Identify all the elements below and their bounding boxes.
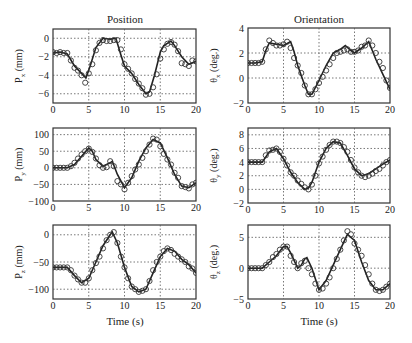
x-tick-label: 0 — [246, 104, 251, 115]
x-tick-label: 15 — [350, 104, 360, 115]
x-tick-label: 5 — [86, 104, 91, 115]
x-tick-label: 20 — [385, 300, 395, 311]
y-tick-label: 0 — [239, 73, 244, 84]
panel-top-left: 051015200−2−4−6Px (mm) — [13, 29, 201, 115]
x-tick-label: 0 — [51, 104, 56, 115]
x-tick-label: 0 — [51, 202, 56, 213]
y-tick-label: 6 — [239, 143, 244, 154]
y-tick-label: −50 — [33, 179, 49, 190]
x-tick-label: 15 — [155, 202, 165, 213]
y-tick-label: −2 — [38, 51, 49, 62]
x-axis-label-left: Time (s) — [106, 315, 144, 328]
panel-top-right: 05101520420−2θx (deg.) — [208, 23, 395, 116]
x-tick-label: 10 — [314, 204, 324, 215]
y-axis-label: Px (mm) — [13, 49, 27, 83]
x-tick-label: 20 — [385, 104, 395, 115]
y-axis-label: θy (deg.) — [208, 148, 222, 182]
y-tick-label: 50 — [39, 146, 49, 157]
y-tick-label: 8 — [239, 129, 244, 140]
y-tick-label: −50 — [33, 257, 49, 268]
y-axis-label: θx (deg.) — [208, 48, 222, 82]
y-tick-label: −2 — [233, 98, 244, 109]
figure: Position Orientation Time (s) Time (s) 0… — [0, 0, 412, 343]
y-tick-label: −2 — [233, 198, 244, 209]
panel-middle-right: 0510152086420−2θy (deg.) — [208, 128, 395, 215]
x-tick-label: 10 — [120, 300, 130, 311]
x-tick-label: 5 — [281, 104, 286, 115]
y-axis-label: Pz (mm) — [13, 245, 27, 278]
y-tick-label: −5 — [233, 294, 244, 305]
y-axis-label: Py (mm) — [13, 148, 27, 182]
y-tick-label: −100 — [28, 284, 49, 295]
y-tick-label: 0 — [44, 229, 49, 240]
y-axis-label: θz (deg.) — [208, 245, 222, 279]
x-tick-label: 20 — [191, 202, 201, 213]
y-tick-label: −100 — [28, 196, 49, 207]
y-tick-label: 0 — [44, 162, 49, 173]
x-tick-label: 5 — [281, 204, 286, 215]
x-tick-label: 0 — [246, 204, 251, 215]
panel-middle-left: 05101520100500−50−100Py (mm) — [13, 128, 201, 213]
y-tick-label: 2 — [239, 170, 244, 181]
y-tick-label: −4 — [38, 70, 49, 81]
x-tick-label: 5 — [86, 300, 91, 311]
x-tick-label: 5 — [86, 202, 91, 213]
x-tick-label: 15 — [155, 300, 165, 311]
x-tick-label: 15 — [350, 300, 360, 311]
y-tick-label: 0 — [239, 184, 244, 195]
x-axis-label-right: Time (s) — [300, 315, 338, 328]
x-tick-label: 0 — [51, 300, 56, 311]
y-tick-label: 2 — [239, 48, 244, 59]
x-tick-label: 20 — [385, 204, 395, 215]
y-tick-label: 4 — [239, 23, 244, 34]
y-tick-label: −6 — [38, 88, 49, 99]
x-tick-label: 15 — [155, 104, 165, 115]
y-tick-label: 100 — [34, 129, 49, 140]
column-title-orientation: Orientation — [294, 13, 345, 25]
x-tick-label: 20 — [191, 300, 201, 311]
y-tick-label: 0 — [44, 33, 49, 44]
y-tick-label: 4 — [239, 157, 244, 168]
x-tick-label: 10 — [314, 104, 324, 115]
x-tick-label: 20 — [191, 104, 201, 115]
y-tick-label: 0 — [239, 263, 244, 274]
column-title-position: Position — [107, 13, 144, 25]
panel-bottom-right: 0510152050−5θz (deg.) — [208, 225, 395, 311]
panel-bottom-left: 051015200−50−100Pz (mm) — [13, 225, 201, 311]
y-tick-label: 5 — [239, 232, 244, 243]
x-tick-label: 10 — [120, 202, 130, 213]
x-tick-label: 5 — [281, 300, 286, 311]
x-tick-label: 0 — [246, 300, 251, 311]
x-tick-label: 15 — [350, 204, 360, 215]
x-tick-label: 10 — [314, 300, 324, 311]
x-tick-label: 10 — [120, 104, 130, 115]
